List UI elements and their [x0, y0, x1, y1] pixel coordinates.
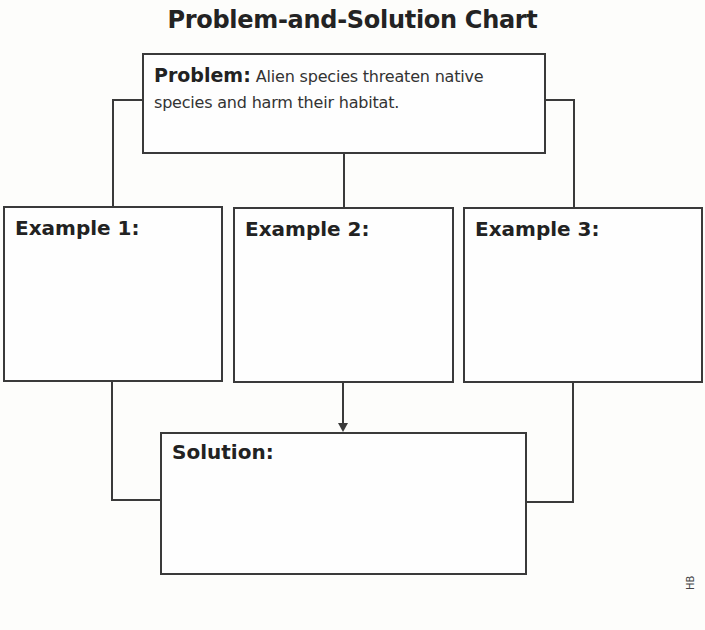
solution-label: Solution: — [172, 440, 515, 464]
connector-ex1-down-v — [111, 381, 113, 500]
chart-title: Problem-and-Solution Chart — [0, 6, 705, 34]
connector-problem-right-h — [545, 99, 575, 101]
problem-label: Problem: — [154, 64, 251, 86]
example-2-label: Example 2: — [245, 217, 442, 241]
connector-problem-left-v — [112, 99, 114, 207]
connector-ex1-solution-h — [111, 499, 161, 501]
connector-problem-left-h — [113, 99, 143, 101]
footer-code: HB — [685, 576, 696, 590]
solution-box[interactable]: Solution: — [160, 432, 527, 575]
connector-ex2-down-v — [342, 382, 344, 424]
example-1-box[interactable]: Example 1: — [3, 206, 223, 382]
connector-problem-right-v — [573, 99, 575, 208]
example-3-box[interactable]: Example 3: — [463, 207, 703, 383]
example-1-label: Example 1: — [15, 216, 211, 240]
example-2-box[interactable]: Example 2: — [233, 207, 454, 383]
connector-problem-center-v — [343, 153, 345, 208]
example-3-label: Example 3: — [475, 217, 691, 241]
arrow-down-icon — [338, 423, 348, 432]
connector-ex3-down-v — [572, 382, 574, 503]
connector-ex3-solution-h — [526, 501, 574, 503]
problem-box: Problem: Alien species threaten native s… — [142, 53, 546, 154]
